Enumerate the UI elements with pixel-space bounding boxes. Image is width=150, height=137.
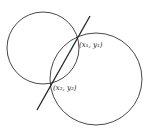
point-label-2: (x₂, y₂)	[53, 84, 77, 92]
secant-line	[37, 16, 90, 110]
intersecting-circles-diagram: (x₁, y₁) (x₂, y₂)	[0, 0, 150, 137]
small-circle	[7, 12, 79, 84]
point-label-1: (x₁, y₁)	[79, 41, 103, 49]
